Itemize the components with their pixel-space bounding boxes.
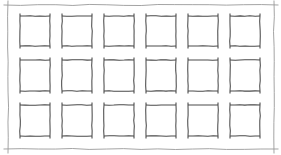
box-edge-right	[260, 60, 261, 91]
placeholder-box-grid	[20, 14, 261, 139]
placeholder-box[interactable]	[146, 14, 176, 49]
placeholder-box[interactable]	[62, 14, 92, 49]
placeholder-box[interactable]	[230, 14, 261, 49]
box-edge-bottom	[188, 136, 218, 137]
box-edge-right	[176, 60, 177, 91]
box-edge-top	[20, 105, 50, 106]
placeholder-box[interactable]	[188, 14, 219, 49]
box-edge-bottom	[188, 91, 218, 92]
box-edge-bottom	[62, 136, 92, 137]
box-edge-bottom	[104, 91, 134, 92]
outer-frame	[4, 1, 278, 153]
placeholder-box[interactable]	[62, 103, 92, 139]
box-edge-bottom	[104, 46, 134, 47]
box-edge-bottom	[188, 46, 218, 47]
box-edge-right	[260, 105, 261, 136]
box-edge-bottom	[230, 46, 260, 47]
placeholder-box[interactable]	[104, 14, 135, 49]
box-edge-bottom	[20, 91, 50, 92]
placeholder-box[interactable]	[62, 58, 92, 94]
placeholder-box[interactable]	[188, 103, 219, 139]
frame-edge-left	[8, 1, 9, 153]
placeholder-box[interactable]	[20, 14, 50, 49]
placeholder-box[interactable]	[188, 58, 218, 94]
box-edge-left	[146, 105, 147, 136]
box-edge-top	[62, 105, 92, 106]
box-edge-left	[62, 60, 63, 91]
placeholder-box[interactable]	[230, 103, 261, 139]
box-edge-right	[218, 105, 219, 136]
box-edge-left	[20, 105, 21, 136]
frame-edge-right	[274, 1, 275, 153]
box-edge-top	[230, 60, 260, 61]
box-edge-right	[134, 105, 135, 136]
placeholder-box[interactable]	[230, 58, 260, 94]
box-edge-top	[104, 16, 134, 17]
box-edge-bottom	[62, 91, 92, 92]
box-edge-top	[20, 16, 50, 17]
box-edge-right	[260, 16, 261, 46]
placeholder-box[interactable]	[20, 58, 50, 94]
placeholder-box[interactable]	[146, 103, 176, 139]
box-edge-left	[230, 105, 231, 136]
box-edge-bottom	[62, 46, 92, 47]
frame-edge-top	[4, 4, 278, 5]
placeholder-box[interactable]	[20, 103, 50, 139]
frame-edge-bottom	[4, 148, 278, 149]
wireframe-sketch	[0, 0, 281, 155]
placeholder-box[interactable]	[104, 103, 135, 139]
placeholder-box[interactable]	[146, 58, 177, 94]
box-edge-right	[218, 16, 219, 46]
box-edge-left	[62, 16, 63, 46]
placeholder-box[interactable]	[104, 58, 134, 94]
box-edge-top	[230, 16, 260, 17]
box-edge-right	[92, 16, 93, 46]
box-edge-bottom	[230, 136, 260, 137]
sketch-canvas	[0, 0, 281, 155]
